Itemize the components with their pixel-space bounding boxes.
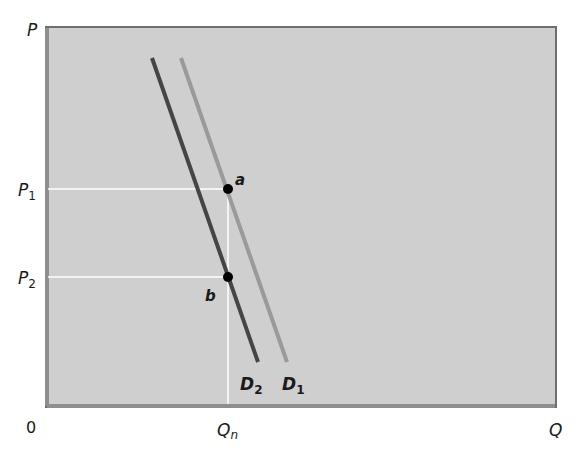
- point-b-label: b: [205, 287, 216, 305]
- p1-label: P1: [18, 180, 36, 203]
- point-a-label: a: [235, 171, 245, 189]
- plot-area: [46, 27, 556, 407]
- point-a: [223, 184, 233, 194]
- y-axis-label: P: [27, 20, 38, 40]
- p2-label: P2: [18, 268, 36, 291]
- demand-shift-diagram: P P1 P2 a b D2 D1 0 Qn Q: [0, 0, 587, 465]
- x-axis-label: Q: [549, 420, 562, 440]
- qn-label: Qn: [217, 420, 238, 442]
- point-b: [223, 272, 233, 282]
- origin-label: 0: [26, 418, 36, 437]
